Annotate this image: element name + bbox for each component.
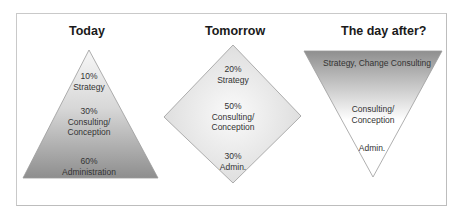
pct: 30% [220, 151, 246, 162]
label-text-2: Conception [211, 122, 254, 133]
label-text: Consulting/ [67, 117, 110, 128]
label-today-administration: 60% Administration [62, 156, 116, 177]
label-text: Strategy, Change Consulting [323, 58, 431, 69]
label-text: Admin. [359, 143, 385, 154]
label-text: Administration [62, 167, 116, 178]
label-day-after-consulting: Consulting/ Conception [351, 104, 394, 125]
label-tomorrow-consulting: 50% Consulting/ Conception [211, 101, 254, 133]
label-tomorrow-strategy: 20% Strategy [217, 64, 249, 85]
label-today-consulting: 30% Consulting/ Conception [67, 106, 110, 138]
label-text: Consulting/ [351, 104, 394, 115]
panel-title-today: Today [69, 24, 105, 38]
panel-title-day-after: The day after? [341, 24, 426, 38]
pct: 50% [211, 101, 254, 112]
pct: 60% [62, 156, 116, 167]
pct: 10% [73, 71, 105, 82]
label-today-strategy: 10% Strategy [73, 71, 105, 92]
label-day-after-strategy: Strategy, Change Consulting [323, 58, 431, 69]
label-text: Consulting/ [211, 112, 254, 123]
label-text-2: Conception [67, 127, 110, 138]
pct: 20% [217, 64, 249, 75]
panel-title-tomorrow: Tomorrow [205, 24, 265, 38]
label-tomorrow-admin: 30% Admin. [220, 151, 246, 172]
label-text-2: Conception [351, 115, 394, 126]
label-text: Admin. [220, 162, 246, 173]
label-day-after-admin: Admin. [359, 143, 385, 154]
pct: 30% [67, 106, 110, 117]
label-text: Strategy [217, 75, 249, 86]
label-text: Strategy [73, 82, 105, 93]
